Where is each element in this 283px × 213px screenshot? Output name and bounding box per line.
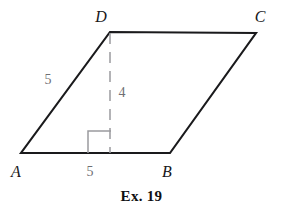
altitude-length-label: 4	[119, 86, 126, 100]
right-angle-marker	[88, 131, 111, 153]
parallelogram-outline	[21, 32, 256, 153]
vertex-label-d: D	[95, 9, 107, 25]
vertex-label-c: C	[255, 9, 266, 25]
base-ab-length-label: 5	[87, 165, 94, 179]
geometry-figure: D C A B 5 4 5 Ex. 19	[0, 0, 283, 213]
figure-caption: Ex. 19	[0, 188, 283, 205]
vertex-label-a: A	[11, 164, 21, 180]
vertex-label-b: B	[162, 164, 172, 180]
parallelogram-diagram	[0, 0, 283, 213]
side-ad-length-label: 5	[45, 73, 52, 87]
